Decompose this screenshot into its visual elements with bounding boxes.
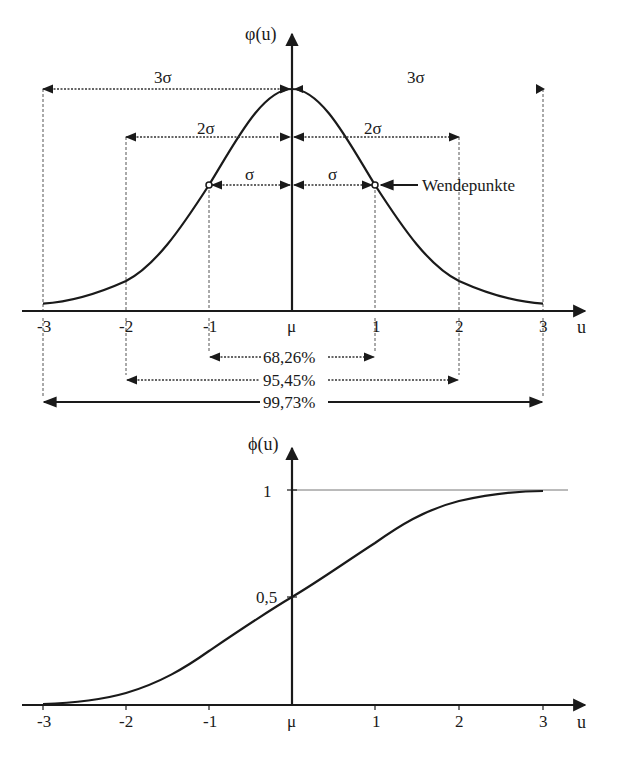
svg-text:-1: -1 [203, 317, 217, 336]
svg-text:2: 2 [455, 317, 464, 336]
interval-95-label: 95,45% [263, 371, 315, 390]
sigma1-right-label: σ [328, 165, 337, 184]
inflection-point-right [372, 182, 378, 188]
sigma2-right-label: 2σ [364, 119, 382, 138]
interval-99-label: 99,73% [263, 393, 315, 412]
y-axis-label: ϕ(u) [248, 434, 278, 455]
y-axis-label: φ(u) [245, 24, 276, 45]
x-tick-labels: -3 -2 -1 μ 1 2 3 u [37, 712, 586, 732]
x-tick-labels: -3 -2 -1 μ 1 2 3 u [37, 317, 586, 337]
svg-text:-3: -3 [37, 712, 51, 731]
svg-text:3: 3 [539, 317, 548, 336]
svg-text:1: 1 [372, 317, 381, 336]
interval-68-label: 68,26% [263, 348, 315, 367]
inflection-point-left [206, 182, 212, 188]
svg-text:3: 3 [539, 712, 548, 731]
sigma3-left-label: 3σ [154, 68, 172, 87]
sigma3-right-label: 3σ [407, 68, 425, 87]
svg-text:μ: μ [287, 317, 296, 336]
cdf-chart: ϕ(u) 1 0,5 -3 -2 -1 μ 1 2 3 u [22, 434, 586, 732]
interval-markers: 68,26% 95,45% 99,73% [44, 348, 542, 412]
sigma1-left-label: σ [245, 165, 254, 184]
svg-text:1: 1 [372, 712, 381, 731]
svg-text:2: 2 [455, 712, 464, 731]
density-chart: φ(u) 3σ 3σ 2σ 2σ σ σ Wendepunkte -3 -2 -… [22, 24, 586, 412]
svg-text:μ: μ [287, 712, 296, 731]
sigma2-left-label: 2σ [197, 119, 215, 138]
svg-text:-2: -2 [119, 317, 133, 336]
y-tick-half: 0,5 [256, 588, 277, 607]
inflection-label: Wendepunkte [422, 176, 515, 195]
svg-text:-1: -1 [203, 712, 217, 731]
x-axis-label: u [577, 712, 586, 732]
svg-text:-3: -3 [37, 317, 51, 336]
sigma-markers [43, 84, 545, 188]
normal-distribution-figure: φ(u) 3σ 3σ 2σ 2σ σ σ Wendepunkte -3 -2 -… [0, 0, 619, 758]
svg-text:-2: -2 [119, 712, 133, 731]
y-tick-one: 1 [263, 482, 272, 501]
x-axis-label: u [577, 317, 586, 337]
